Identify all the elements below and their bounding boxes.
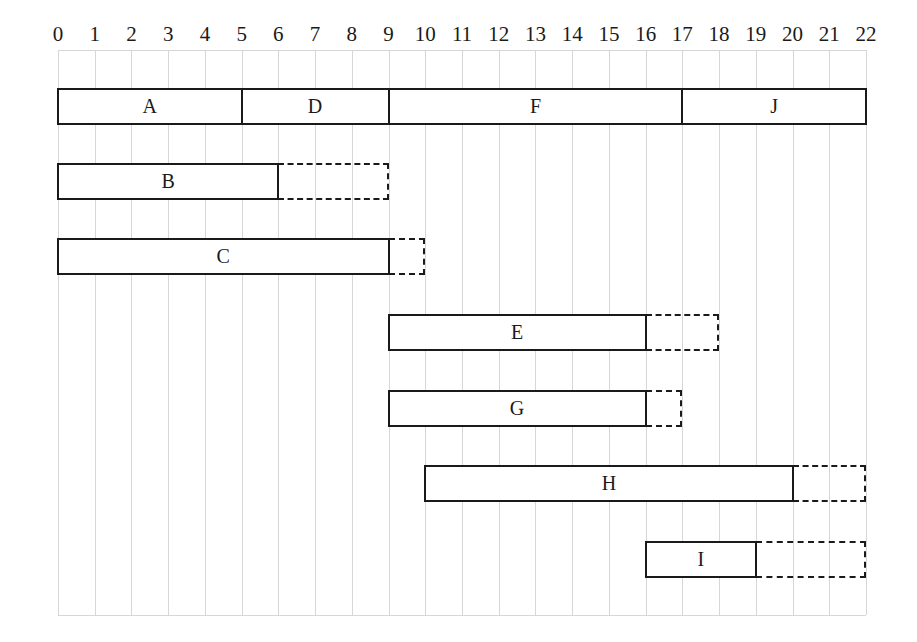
x-tick-label: 17 [672, 22, 693, 47]
x-tick-label: 22 [856, 22, 877, 47]
task-label: F [530, 95, 541, 118]
x-tick-label: 15 [598, 22, 619, 47]
gridline [352, 50, 353, 615]
gridline [131, 50, 132, 615]
gridline [866, 50, 867, 615]
x-tick-label: 6 [273, 22, 284, 47]
slack-b [278, 163, 388, 200]
gridline [829, 50, 830, 615]
gantt-chart: 012345678910111213141516171819202122ADFJ… [0, 0, 917, 642]
x-tick-label: 16 [635, 22, 656, 47]
x-tick-label: 12 [488, 22, 509, 47]
x-tick-label: 4 [200, 22, 211, 47]
task-label: J [770, 95, 778, 118]
x-tick-label: 10 [415, 22, 436, 47]
task-label: H [602, 472, 616, 495]
x-tick-label: 18 [709, 22, 730, 47]
x-tick-label: 1 [89, 22, 100, 47]
grid-border [58, 615, 866, 616]
x-tick-label: 19 [745, 22, 766, 47]
x-tick-label: 2 [126, 22, 137, 47]
slack-c [389, 238, 426, 275]
x-tick-label: 7 [310, 22, 321, 47]
gridline [95, 50, 96, 615]
gridline [793, 50, 794, 615]
task-bar-e: E [388, 314, 647, 351]
gridline [756, 50, 757, 615]
slack-i [756, 541, 866, 578]
x-tick-label: 9 [383, 22, 394, 47]
slack-g [646, 390, 683, 427]
gridline [168, 50, 169, 615]
task-bar-c: C [57, 238, 390, 275]
x-tick-label: 8 [347, 22, 358, 47]
task-label: A [143, 95, 157, 118]
task-label: G [510, 397, 524, 420]
task-bar-d: D [241, 88, 390, 125]
x-tick-label: 11 [452, 22, 472, 47]
gridline [315, 50, 316, 615]
x-tick-label: 14 [562, 22, 583, 47]
task-bar-i: I [645, 541, 757, 578]
task-bar-f: F [388, 88, 684, 125]
task-label: D [308, 95, 322, 118]
task-bar-g: G [388, 390, 647, 427]
gridline [58, 50, 59, 615]
x-tick-label: 3 [163, 22, 174, 47]
task-bar-h: H [424, 465, 793, 502]
task-bar-a: A [57, 88, 243, 125]
slack-h [793, 465, 866, 502]
task-label: I [697, 548, 704, 571]
x-tick-label: 21 [819, 22, 840, 47]
x-tick-label: 13 [525, 22, 546, 47]
x-tick-label: 0 [53, 22, 64, 47]
grid-border [58, 50, 866, 51]
gridline [205, 50, 206, 615]
gridline [242, 50, 243, 615]
task-bar-j: J [681, 88, 867, 125]
gridline [278, 50, 279, 615]
task-label: B [162, 170, 175, 193]
task-label: E [511, 321, 523, 344]
task-bar-b: B [57, 163, 279, 200]
x-tick-label: 20 [782, 22, 803, 47]
task-label: C [217, 245, 230, 268]
slack-e [646, 314, 719, 351]
x-tick-label: 5 [236, 22, 247, 47]
gridline [719, 50, 720, 615]
